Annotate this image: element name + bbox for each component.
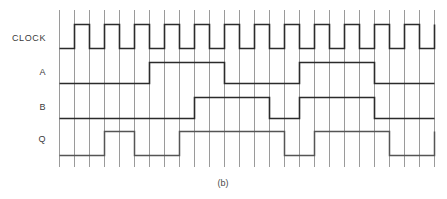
signal-label-b: B	[39, 102, 46, 112]
signal-labels: CLOCK A B Q	[12, 33, 46, 144]
timing-diagram-canvas: CLOCK A B Q (b)	[0, 0, 447, 199]
timing-diagram-figure: CLOCK A B Q (b)	[0, 0, 447, 199]
waveform-a	[60, 63, 435, 84]
signal-label-clock: CLOCK	[12, 33, 46, 43]
waveform-clock	[60, 25, 435, 49]
grid-lines	[60, 10, 435, 167]
figure-caption: (b)	[218, 178, 229, 188]
signal-label-q: Q	[38, 134, 46, 144]
signal-label-a: A	[39, 67, 46, 77]
waveform-b	[60, 98, 435, 119]
waveform-q	[60, 132, 435, 156]
